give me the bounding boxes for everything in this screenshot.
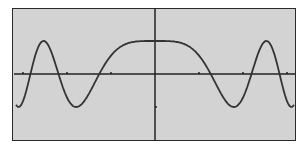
graph-plot (0, 0, 305, 154)
